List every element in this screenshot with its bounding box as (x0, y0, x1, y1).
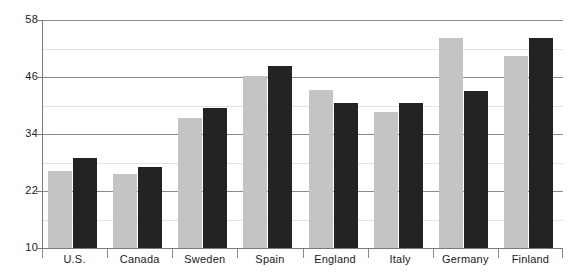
bar (243, 76, 267, 248)
bar (178, 118, 202, 248)
bar (374, 112, 398, 248)
x-axis-tick-label: Canada (107, 253, 172, 266)
x-axis-tick-label: U.S. (42, 253, 107, 266)
category-cell: Finland (498, 249, 563, 274)
category-divider (107, 249, 108, 258)
bar (464, 91, 488, 248)
y-axis-labels: 1022344658 (0, 0, 38, 274)
category-cell: Germany (433, 249, 498, 274)
category-divider (237, 249, 238, 258)
category-divider (498, 249, 499, 258)
x-axis-tick-label: Italy (368, 253, 433, 266)
x-axis-tick-label: England (303, 253, 368, 266)
category-cell: U.S. (42, 249, 107, 274)
bar (399, 103, 423, 248)
bar (334, 103, 358, 248)
bar (439, 38, 463, 248)
bar (529, 38, 553, 248)
bar-chart: 1022344658 U.S.CanadaSwedenSpainEnglandI… (0, 0, 571, 274)
gridline-minor (42, 49, 563, 50)
category-cell: Italy (368, 249, 433, 274)
bar (309, 90, 333, 248)
x-axis-tick-label: Finland (498, 253, 563, 266)
bar (504, 56, 528, 248)
bar (138, 167, 162, 248)
bar (113, 174, 137, 248)
category-divider (172, 249, 173, 258)
x-axis-tick-label: Germany (433, 253, 498, 266)
plot-area (42, 20, 563, 248)
category-cell: England (303, 249, 368, 274)
bar (48, 171, 72, 248)
category-cell: Spain (237, 249, 302, 274)
y-axis-tick-label: 22 (4, 185, 38, 196)
x-axis-tick-label: Sweden (172, 253, 237, 266)
bar (73, 158, 97, 248)
category-divider (433, 249, 434, 258)
y-axis-tick-label: 10 (4, 242, 38, 253)
category-cell: Sweden (172, 249, 237, 274)
category-axis: U.S.CanadaSwedenSpainEnglandItalyGermany… (42, 249, 563, 274)
gridline-major (42, 77, 563, 78)
category-divider (42, 249, 43, 258)
category-divider (368, 249, 369, 258)
y-axis-tick-label: 58 (4, 14, 38, 25)
x-axis-tick-label: Spain (237, 253, 302, 266)
category-cell: Canada (107, 249, 172, 274)
gridline-major (42, 20, 563, 21)
bar (203, 108, 227, 248)
y-axis-tick-label: 34 (4, 128, 38, 139)
category-divider (303, 249, 304, 258)
y-axis-tick-label: 46 (4, 71, 38, 82)
bar (268, 66, 292, 248)
y-axis-line (42, 20, 43, 249)
